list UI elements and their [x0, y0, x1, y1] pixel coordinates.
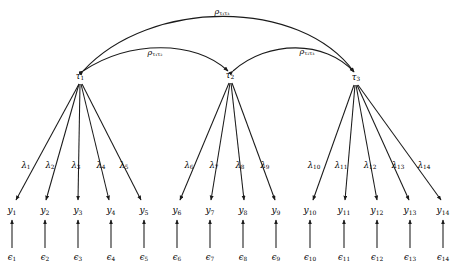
loading-edge-tau1-y4: [81, 84, 109, 200]
error-label-eps2: ϵ2: [41, 253, 49, 263]
loading-edge-tau2-y8: [231, 83, 244, 200]
indicator-label-y1: y1: [8, 206, 17, 216]
indicator-label-y10: y10: [304, 206, 317, 216]
indicator-label-y3: y3: [74, 206, 83, 216]
loading-edge-tau3-y11: [345, 85, 355, 200]
loading-label-lambda5: λ5: [119, 161, 128, 171]
error-label-eps14: ϵ14: [437, 253, 449, 263]
loading-edge-tau3-y10: [313, 85, 354, 200]
loading-label-lambda8: λ8: [235, 161, 244, 171]
indicator-label-y11: y11: [338, 206, 351, 216]
loading-edge-tau1-y3: [78, 84, 80, 200]
indicator-label-y9: y9: [272, 206, 281, 216]
indicator-label-y7: y7: [206, 206, 215, 216]
loading-edge-tau2-y6: [180, 83, 229, 200]
loading-edge-tau1-y5: [82, 84, 141, 200]
loading-edge-tau3-y14: [358, 85, 441, 200]
error-label-eps4: ϵ4: [107, 253, 115, 263]
loading-label-lambda3: λ3: [71, 161, 80, 171]
loading-label-lambda4: λ4: [96, 161, 105, 171]
loading-edge-tau1-y1: [16, 84, 79, 200]
error-label-eps13: ϵ13: [404, 253, 416, 263]
indicator-label-y5: y5: [140, 206, 149, 216]
correlation-label-rho_t1_t2: ρτ₁τ₂: [147, 49, 162, 58]
error-label-eps7: ϵ7: [206, 253, 214, 263]
indicator-label-y2: y2: [41, 206, 50, 216]
error-label-eps11: ϵ11: [338, 253, 350, 263]
factor-label-tau1: τ1: [76, 72, 84, 82]
loading-label-lambda13: λ13: [392, 161, 405, 171]
loading-label-lambda9: λ9: [260, 161, 269, 171]
loading-label-lambda14: λ14: [418, 161, 431, 171]
loading-edge-tau3-y12: [356, 85, 377, 200]
error-label-eps9: ϵ9: [272, 253, 280, 263]
error-label-eps12: ϵ12: [371, 253, 383, 263]
correlation-label-rho_t2_t3: ρτ₂τ₃: [299, 48, 314, 57]
error-edges: [12, 220, 443, 248]
factor-label-tau2: τ2: [226, 71, 234, 81]
indicator-label-y12: y12: [371, 206, 384, 216]
sem-path-diagram: τ1τ2τ3ρτ₁τ₃ρτ₁τ₂ρτ₂τ₃λ1λ2λ3λ4λ5λ6λ7λ8λ9λ…: [0, 0, 464, 269]
indicator-label-y14: y14: [437, 206, 450, 216]
error-label-eps8: ϵ8: [239, 253, 247, 263]
correlation-arcs: [83, 16, 354, 72]
factor-loading-edges: [16, 83, 441, 200]
indicator-label-y13: y13: [404, 206, 417, 216]
error-label-eps10: ϵ10: [304, 253, 316, 263]
indicator-label-y6: y6: [173, 206, 182, 216]
loading-label-lambda12: λ12: [364, 161, 377, 171]
correlation-arc-tau2-tau3: [233, 48, 354, 72]
error-label-eps3: ϵ3: [74, 253, 82, 263]
loading-label-lambda11: λ11: [335, 161, 348, 171]
loading-label-lambda7: λ7: [209, 161, 218, 171]
loading-edge-tau3-y13: [357, 85, 409, 200]
path-layer: [0, 0, 464, 269]
indicator-label-y8: y8: [239, 206, 248, 216]
error-label-eps6: ϵ6: [173, 253, 181, 263]
loading-edge-tau2-y7: [211, 83, 230, 200]
factor-label-tau3: τ3: [352, 73, 360, 83]
loading-label-lambda10: λ10: [308, 161, 321, 171]
loading-label-lambda1: λ1: [21, 161, 30, 171]
loading-edge-tau2-y9: [232, 83, 275, 200]
error-label-eps5: ϵ5: [140, 253, 148, 263]
loading-edge-tau1-y2: [46, 84, 79, 200]
indicator-label-y4: y4: [107, 206, 116, 216]
loading-label-lambda2: λ2: [45, 161, 54, 171]
correlation-label-rho_t1_t3: ρτ₁τ₃: [214, 8, 229, 17]
loading-label-lambda6: λ6: [184, 161, 193, 171]
error-label-eps1: ϵ1: [8, 253, 16, 263]
